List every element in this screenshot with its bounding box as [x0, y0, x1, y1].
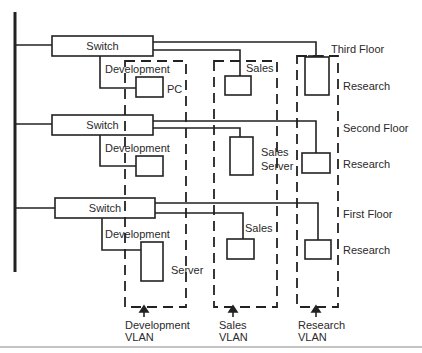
dev-label-second: Development	[105, 142, 170, 154]
research-box-first	[305, 240, 331, 259]
sales-box-first	[227, 239, 254, 259]
sales-server-label-1: Sales	[261, 146, 289, 158]
research-box-second	[302, 153, 330, 173]
vlan-name: Research	[298, 319, 345, 331]
sales-label-third: Sales	[246, 62, 274, 74]
sales-server-label-2: Server	[261, 160, 293, 172]
sales-label-first: Sales	[245, 222, 273, 234]
floor-label-first: First Floor	[343, 208, 393, 220]
research-label-third: Research	[343, 80, 390, 92]
switch-label-second: Switch	[52, 115, 153, 135]
dev-box-second	[136, 156, 163, 176]
sales-vlan-boundary	[214, 61, 277, 307]
arrow-up-icon	[140, 306, 148, 312]
switch-label-third: Switch	[52, 36, 153, 56]
vlan-label-research: Research VLAN	[298, 319, 345, 343]
research-label-first: Research	[343, 244, 390, 256]
vlan-name: Sales	[219, 319, 248, 331]
pc-label: PC	[167, 83, 182, 95]
dev-label-first: Development	[105, 228, 170, 240]
research-box-third	[305, 57, 329, 95]
sales-box-third	[225, 76, 251, 95]
vlan-label-sales: Sales VLAN	[219, 319, 248, 343]
vlan-suffix: VLAN	[125, 331, 190, 343]
sales-server-box	[230, 137, 253, 175]
vlan-suffix: VLAN	[219, 331, 248, 343]
research-label-second: Research	[343, 158, 390, 170]
switch-label-first: Switch	[55, 198, 155, 218]
vlan-name: Development	[125, 319, 190, 331]
vlan-label-development: Development VLAN	[125, 319, 190, 343]
dev-server-box	[141, 242, 163, 281]
dev-label-third: Development	[105, 63, 170, 75]
floor-label-third: Third Floor	[331, 43, 384, 55]
server-label: Server	[171, 264, 203, 276]
floor-label-second: Second Floor	[343, 122, 408, 134]
vlan-suffix: VLAN	[298, 331, 345, 343]
research-vlan-boundary	[297, 56, 338, 307]
pc-box	[136, 77, 163, 97]
